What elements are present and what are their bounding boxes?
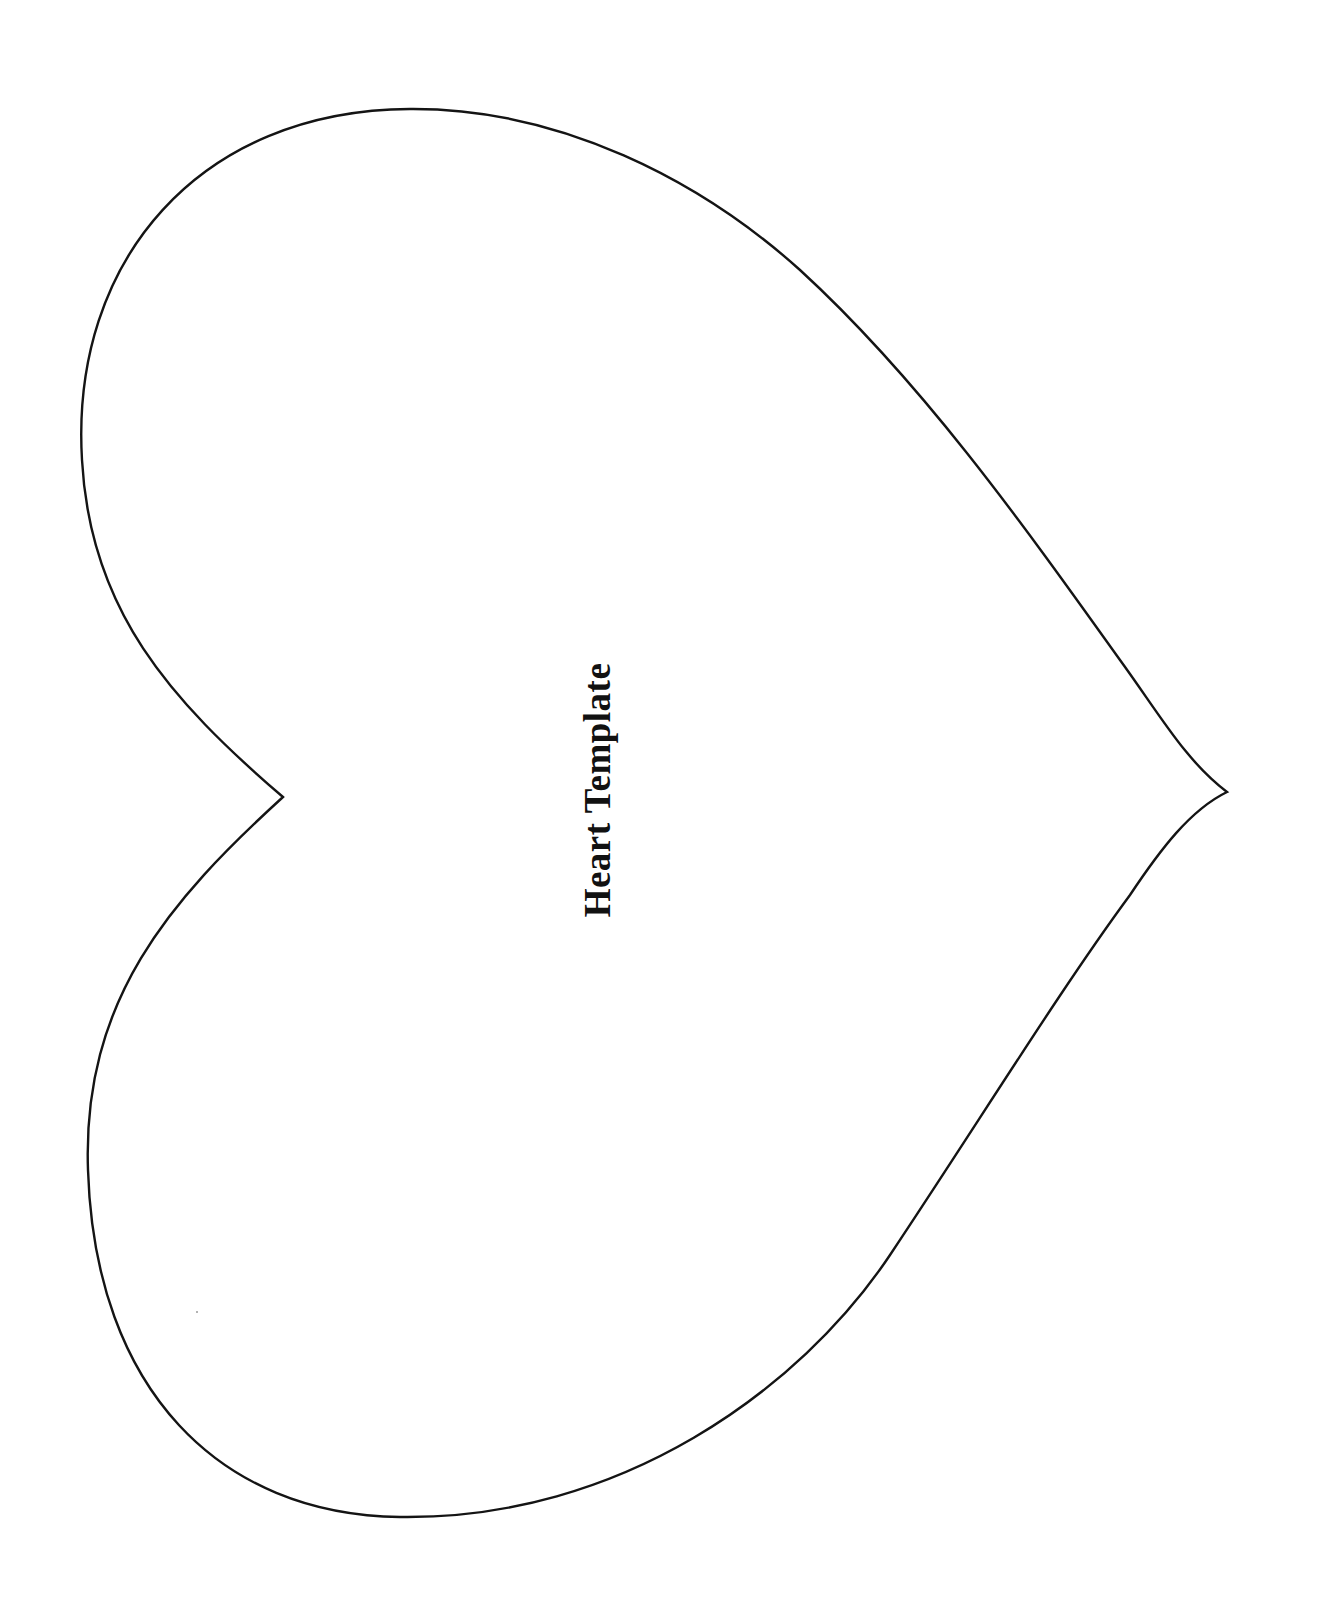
- template-page: Heart Template: [0, 0, 1335, 1604]
- scan-speck: [196, 1311, 198, 1313]
- heart-shape: [0, 0, 1335, 1604]
- heart-outline: [81, 109, 1227, 1517]
- template-title: Heart Template: [576, 663, 619, 918]
